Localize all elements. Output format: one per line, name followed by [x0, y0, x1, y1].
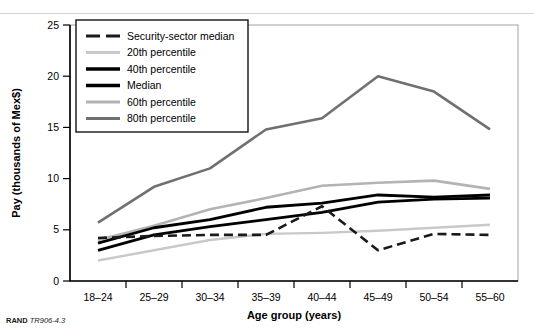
x-tick-label: 40–44 [307, 291, 336, 303]
rand-brand-label: RAND [6, 316, 28, 325]
x-tick-label: 45–49 [363, 291, 392, 303]
x-axis-title: Age group (years) [247, 309, 341, 321]
y-tick-label: 25 [47, 19, 59, 31]
figure-id-label: TR906-4.3 [30, 316, 65, 325]
y-tick-label: 20 [47, 70, 59, 82]
y-tick-label: 5 [53, 223, 59, 235]
x-tick-label: 35–39 [251, 291, 280, 303]
y-axis-title: Pay (thousands of Mex$) [10, 88, 22, 218]
x-tick-label: 55–60 [475, 291, 504, 303]
x-tick-label: 25–29 [139, 291, 168, 303]
y-tick-label: 10 [47, 172, 59, 184]
x-tick-label: 50–54 [419, 291, 448, 303]
legend-label: Security-sector median [127, 30, 235, 42]
legend-label: 20th percentile [127, 46, 196, 58]
legend-label: 60th percentile [127, 96, 196, 108]
x-tick-label: 30–34 [195, 291, 224, 303]
x-tick-label: 18–24 [83, 291, 112, 303]
line-chart: 051015202518–2425–2930–3435–3940–4445–49… [0, 0, 534, 336]
legend-label: Median [127, 79, 162, 91]
y-tick-label: 0 [53, 275, 59, 287]
chart-figure: 051015202518–2425–2930–3435–3940–4445–49… [0, 0, 534, 336]
legend-label: 80th percentile [127, 112, 196, 124]
legend-label: 40th percentile [127, 63, 196, 75]
y-tick-label: 15 [47, 121, 59, 133]
figure-source-note: RAND TR906-4.3 [6, 316, 65, 325]
